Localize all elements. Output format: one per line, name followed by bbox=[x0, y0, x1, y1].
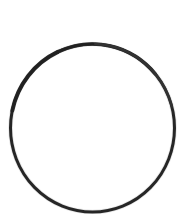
figure-canvas: Single hand-drawn black circle outline o… bbox=[0, 0, 193, 214]
circle-drawing-svg bbox=[0, 0, 193, 214]
